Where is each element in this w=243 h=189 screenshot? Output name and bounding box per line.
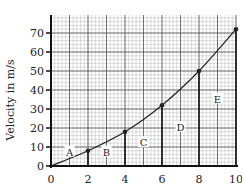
data-point [86,149,91,154]
data-point [160,103,165,108]
region-label-c: C [140,137,148,148]
y-tick-label: 20 [30,122,44,135]
x-tick-label: 8 [196,173,203,186]
x-tick-label: 2 [85,173,92,186]
region-label-b: B [103,147,110,158]
y-tick-label: 60 [30,46,44,59]
x-tick-label: 10 [229,173,242,186]
y-tick-labels: 010203040506070 [30,27,44,173]
y-tick-label: 50 [30,65,44,78]
x-tick-label: 4 [122,173,129,186]
y-tick-label: 70 [30,27,44,40]
x-tick-label: 0 [48,173,55,186]
y-tick-label: 0 [37,160,44,173]
region-label-e: E [214,94,221,105]
region-label-a: A [65,147,74,158]
x-tick-label: 6 [159,173,166,186]
region-label-d: D [176,122,184,133]
y-axis-label: Velocity in m/s [4,59,17,142]
x-tick-labels: 0246810 [48,173,243,186]
data-point [234,27,239,32]
data-point [123,130,128,135]
data-point [197,69,202,74]
y-tick-label: 10 [30,141,44,154]
y-tick-label: 40 [30,84,44,97]
y-tick-label: 30 [30,103,44,116]
velocity-time-chart: ABCDE 0246810 010203040506070 Velocity i… [0,0,242,189]
